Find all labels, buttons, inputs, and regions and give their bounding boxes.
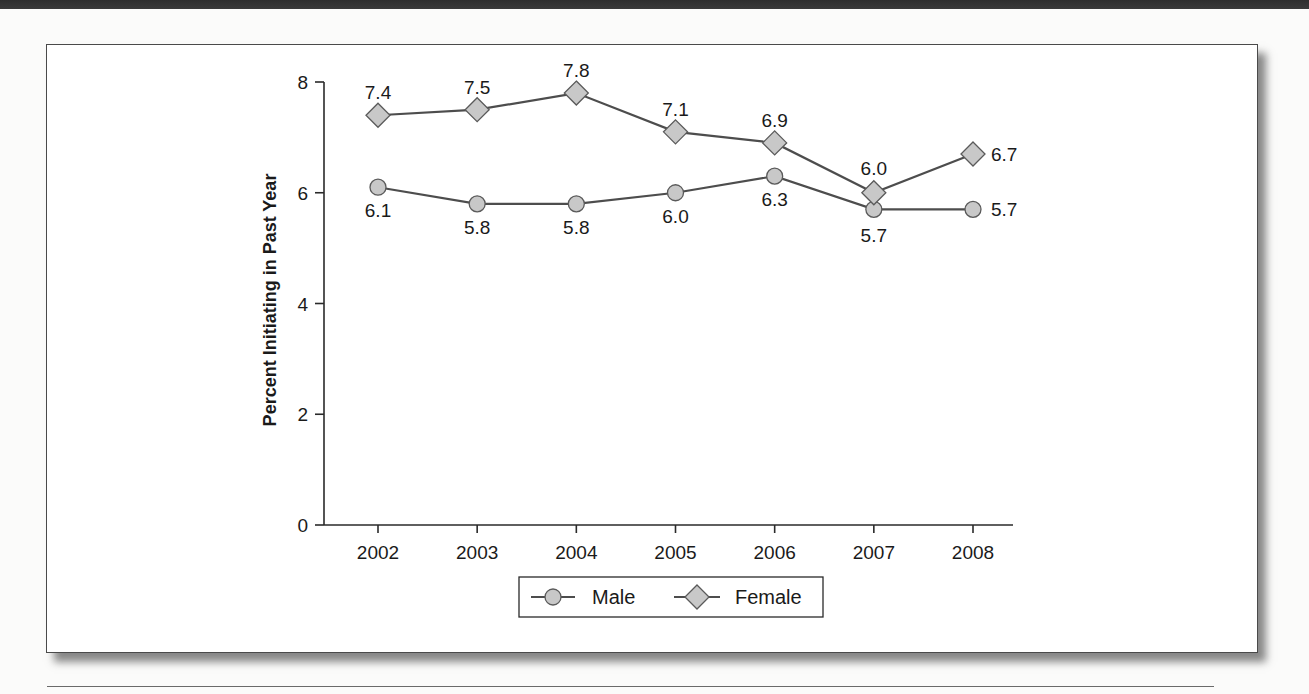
data-label-female: 7.1 [662,99,688,120]
x-tick-label: 2004 [555,542,598,563]
circle-marker-icon [370,179,386,195]
data-label-male: 5.7 [991,199,1017,220]
x-axis: 2002200320042005200620072008 [324,525,1013,563]
y-axis-title: Percent Initiating in Past Year [260,174,280,427]
data-label-male: 6.3 [761,189,787,210]
diamond-marker-icon [763,131,787,155]
diamond-marker-icon [664,120,688,144]
circle-marker-icon [469,196,485,212]
y-axis: 02468 [297,72,324,536]
diamond-marker-icon [564,81,588,105]
data-label-female: 6.7 [991,144,1017,165]
diamond-marker-icon [465,98,489,122]
y-tick-label: 8 [297,72,308,93]
data-label-female: 7.5 [464,77,490,98]
line-chart: 02468 2002200320042005200620072008 Perce… [0,0,1309,694]
data-label-male: 5.8 [563,217,589,238]
x-tick-label: 2006 [754,542,796,563]
data-label-female: 7.4 [365,82,392,103]
x-tick-label: 2003 [456,542,498,563]
data-label-female: 6.0 [861,158,887,179]
data-labels: 6.15.85.86.06.35.75.77.47.57.87.16.96.06… [365,60,1018,246]
y-tick-label: 4 [297,294,308,315]
data-label-male: 5.7 [861,225,887,246]
data-label-male: 5.8 [464,217,490,238]
legend-label-male: Male [592,586,635,608]
circle-marker-icon [545,589,561,605]
data-label-female: 6.9 [761,110,787,131]
data-label-male: 6.1 [365,200,391,221]
x-tick-label: 2008 [952,542,994,563]
diamond-marker-icon [862,181,886,205]
legend-label-female: Female [735,586,802,608]
y-tick-label: 2 [297,404,308,425]
diamond-marker-icon [366,103,390,127]
y-tick-label: 0 [297,515,308,536]
circle-marker-icon [767,168,783,184]
y-tick-label: 6 [297,183,308,204]
legend-item-female: Female [674,585,802,609]
circle-marker-icon [668,185,684,201]
data-label-female: 7.8 [563,60,589,81]
circle-marker-icon [965,201,981,217]
data-label-male: 6.0 [662,206,688,227]
circle-marker-icon [568,196,584,212]
x-tick-label: 2002 [357,542,399,563]
legend: Male Female [519,577,823,617]
x-tick-label: 2007 [853,542,895,563]
diamond-marker-icon [961,142,985,166]
x-tick-label: 2005 [654,542,696,563]
